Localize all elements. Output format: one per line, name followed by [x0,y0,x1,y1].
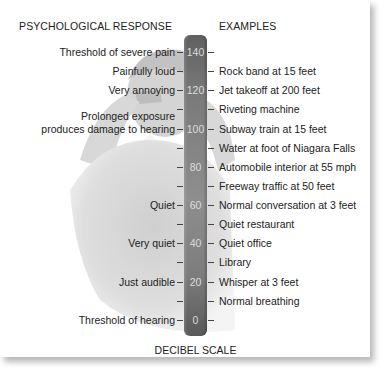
scale-row-100: 100 Prolonged exposure produces damage t… [0,123,370,137]
scale-row-30: Library [0,256,370,270]
diagram-card: PSYCHOLOGICAL RESPONSE EXAMPLES 140 Thre… [0,0,370,357]
scale-row-90: Water at foot of Niagara Falls [0,142,370,156]
response-line-2: produces damage to hearing [41,123,175,136]
psychological-response-header: PSYCHOLOGICAL RESPONSE [19,20,172,32]
tick-right [208,148,214,149]
tick-left [177,148,183,149]
tick-left [177,109,183,110]
response-label: Just audible [119,276,175,288]
tick-right [208,186,214,187]
response-label: Very annoying [108,84,175,96]
tick-left [177,52,183,53]
decibel-label: 40 [184,237,207,249]
decibel-label: 140 [184,46,207,58]
scale-row-40: 40 Very quiet Quiet office [0,237,370,251]
response-label: Prolonged exposure produces damage to he… [41,110,175,136]
example-label: Quiet office [219,237,272,249]
scale-row-50: Quiet restaurant [0,218,370,232]
tick-right [208,90,214,91]
tick-left [177,129,183,130]
example-label: Freeway traffic at 50 feet [219,180,334,192]
tick-left [177,282,183,283]
decibel-label: 100 [184,123,207,135]
example-label: Automobile interior at 55 mph [219,161,356,173]
tick-right [208,224,214,225]
scale-row-130: Painfully loud Rock band at 15 feet [0,65,370,79]
tick-right [208,52,214,53]
tick-right [208,167,214,168]
scale-row-70: Freeway traffic at 50 feet [0,180,370,194]
example-label: Subway train at 15 feet [219,123,326,135]
example-label: Normal conversation at 3 feet [219,199,356,211]
tick-right [208,243,214,244]
tick-left [177,71,183,72]
tick-left [177,320,183,321]
tick-left [177,186,183,187]
scale-row-0: 0 Threshold of hearing [0,314,370,328]
response-label: Very quiet [128,237,175,249]
tick-right [208,71,214,72]
example-label: Whisper at 3 feet [219,276,298,288]
example-label: Water at foot of Niagara Falls [219,142,355,154]
tick-left [177,243,183,244]
examples-header: EXAMPLES [219,20,276,32]
example-label: Normal breathing [219,295,300,307]
scale-row-20: 20 Just audible Whisper at 3 feet [0,276,370,290]
tick-right [208,109,214,110]
example-label: Rock band at 15 feet [219,65,316,77]
decibel-label: 20 [184,276,207,288]
example-label: Quiet restaurant [219,218,294,230]
example-label: Library [219,256,251,268]
tick-left [177,90,183,91]
tick-right [208,262,214,263]
scale-row-140: 140 Threshold of severe pain [0,46,370,60]
decibel-label: 120 [184,84,207,96]
scale-row-10: Normal breathing [0,295,370,309]
tick-right [208,301,214,302]
decibel-scale-caption: DECIBEL SCALE [0,344,391,356]
tick-left [177,205,183,206]
scale-row-80: 80 Automobile interior at 55 mph [0,161,370,175]
tick-left [177,167,183,168]
decibel-label: 80 [184,161,207,173]
example-label: Jet takeoff at 200 feet [219,84,320,96]
scale-row-120: 120 Very annoying Jet takeoff at 200 fee… [0,84,370,98]
response-label: Threshold of hearing [79,314,175,326]
response-line-1: Prolonged exposure [41,110,175,123]
tick-left [177,301,183,302]
tick-left [177,224,183,225]
tick-right [208,320,214,321]
response-label: Quiet [150,199,175,211]
tick-right [208,129,214,130]
tick-right [208,205,214,206]
tick-right [208,282,214,283]
response-label: Painfully loud [113,65,175,77]
decibel-label: 60 [184,199,207,211]
decibel-label: 0 [184,314,207,326]
scale-row-60: 60 Quiet Normal conversation at 3 feet [0,199,370,213]
example-label: Riveting machine [219,103,300,115]
tick-left [177,262,183,263]
response-label: Threshold of severe pain [59,46,175,58]
